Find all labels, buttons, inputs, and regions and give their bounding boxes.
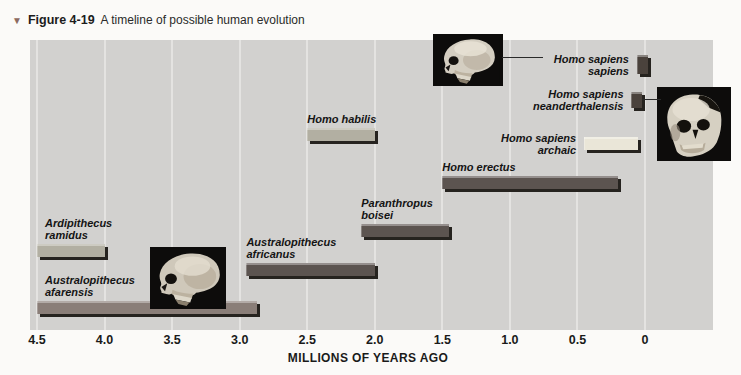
x-tick-4.5: 4.5	[28, 333, 45, 347]
bar-homo-sapiens-sapiens	[637, 55, 648, 74]
neanderthal-skull-photo	[658, 88, 730, 160]
label-australopithecus-afarensis: Australopithecusafarensis	[45, 274, 135, 298]
bar-homo-sapiens-neanderthalensis	[631, 92, 642, 108]
figure-page: ▼ Figure 4-19 A timeline of possible hum…	[0, 0, 741, 375]
figure-marker-icon: ▼	[12, 16, 22, 26]
label-homo-habilis: Homo habilis	[307, 113, 376, 125]
figure-number: Figure 4-19	[28, 13, 95, 27]
gridline-2	[374, 40, 376, 330]
sapiens-skull-photo	[434, 35, 502, 85]
neanderthal-leader-line	[642, 99, 661, 100]
x-tick-0: 0	[642, 333, 649, 347]
label-ardipithecus-ramidus: Ardipithecusramidus	[45, 217, 112, 241]
bar-homo-erectus	[442, 176, 618, 189]
x-axis-title: MILLIONS OF YEARS AGO	[288, 351, 448, 365]
x-tick-1.0: 1.0	[501, 333, 518, 347]
label-homo-erectus: Homo erectus	[442, 161, 515, 173]
label-homo-sapiens-neanderthalensis: Homo sapiensneanderthalensis	[533, 88, 623, 112]
bar-homo-habilis	[307, 128, 375, 141]
gridline-3	[239, 40, 241, 330]
timeline-panel: ArdipithecusramidusAustralopithecusafare…	[30, 40, 713, 330]
gridline-2.5	[306, 40, 308, 330]
x-tick-1.5: 1.5	[434, 333, 451, 347]
x-tick-4.0: 4.0	[96, 333, 113, 347]
gridline-4.5	[36, 40, 38, 330]
label-australopithecus-africanus: Australopithecusafricanus	[246, 236, 336, 260]
bar-homo-sapiens-archaic	[584, 137, 638, 150]
x-tick-0.5: 0.5	[569, 333, 586, 347]
label-homo-sapiens-sapiens: Homo sapienssapiens	[554, 53, 629, 77]
bar-australopithecus-africanus	[246, 263, 374, 276]
bar-ardipithecus-ramidus	[37, 244, 105, 257]
side-skull-icon	[151, 248, 225, 308]
sapiens-leader-line	[502, 57, 543, 58]
front-skull-icon	[658, 88, 730, 160]
figure-title: A timeline of possible human evolution	[101, 13, 305, 27]
bar-paranthropus-boisei	[361, 224, 449, 237]
x-tick-3.5: 3.5	[163, 333, 180, 347]
gridline-0	[644, 40, 646, 330]
x-tick-2.5: 2.5	[299, 333, 316, 347]
x-axis: MILLIONS OF YEARS AGO 4.54.03.53.02.52.0…	[30, 333, 713, 373]
x-tick-3.0: 3.0	[231, 333, 248, 347]
side-skull-icon	[434, 35, 502, 85]
afarensis-skull-photo	[151, 248, 225, 308]
figure-caption: ▼ Figure 4-19 A timeline of possible hum…	[12, 13, 305, 27]
x-tick-2.0: 2.0	[366, 333, 383, 347]
label-paranthropus-boisei: Paranthropusboisei	[361, 197, 433, 221]
label-homo-sapiens-archaic: Homo sapiensarchaic	[501, 132, 576, 156]
